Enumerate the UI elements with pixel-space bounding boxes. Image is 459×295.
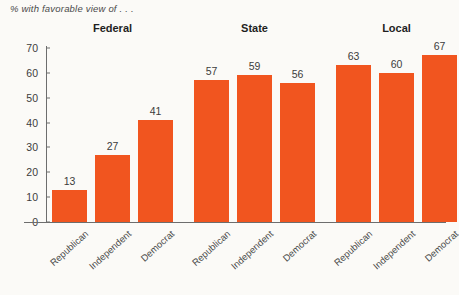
x-axis-tick-label: Democrat <box>280 228 318 264</box>
bar <box>280 83 315 222</box>
x-axis-tick-label: Republican <box>190 228 233 268</box>
x-axis-tick-label: Independent <box>371 228 418 272</box>
x-axis-tick-label: Republican <box>332 228 375 268</box>
bar-value-label: 59 <box>249 60 261 72</box>
bar-value-label: 41 <box>150 105 162 117</box>
bar <box>138 120 173 222</box>
bar-value-label: 56 <box>292 68 304 80</box>
bar <box>422 55 457 222</box>
y-axis-tick-label: 10 <box>16 191 38 203</box>
bar <box>194 80 229 222</box>
y-axis-tick-label: 40 <box>16 117 38 129</box>
bar <box>95 155 130 222</box>
group-header: Local <box>336 22 457 34</box>
bar-value-label: 27 <box>107 140 119 152</box>
bar-value-label: 57 <box>206 65 218 77</box>
x-axis-tick-label: Independent <box>229 228 276 272</box>
bar <box>237 75 272 222</box>
bar-value-label: 60 <box>391 58 403 70</box>
x-axis-tick-label: Democrat <box>138 228 176 264</box>
y-axis-tick-label: 20 <box>16 166 38 178</box>
x-axis-line <box>24 222 446 223</box>
bar <box>336 65 371 222</box>
x-axis-tick-label: Independent <box>87 228 134 272</box>
bar <box>379 73 414 222</box>
bar-value-label: 13 <box>64 175 76 187</box>
y-axis-tick-label: 60 <box>16 67 38 79</box>
group-header: Federal <box>52 22 173 34</box>
bar <box>52 190 87 222</box>
y-axis-tick-label: 50 <box>16 92 38 104</box>
y-axis-tick-label: 30 <box>16 141 38 153</box>
x-axis-tick-label: Republican <box>48 228 91 268</box>
group-header: State <box>194 22 315 34</box>
chart-subtitle: % with favorable view of . . . <box>10 3 134 14</box>
bar-value-label: 63 <box>348 50 360 62</box>
plot-area <box>46 48 450 222</box>
y-axis-tick-label: 70 <box>16 42 38 54</box>
bar-chart: % with favorable view of . . . FederalSt… <box>0 0 459 295</box>
bar-value-label: 67 <box>434 40 446 52</box>
x-axis-tick-label: Democrat <box>422 228 459 264</box>
